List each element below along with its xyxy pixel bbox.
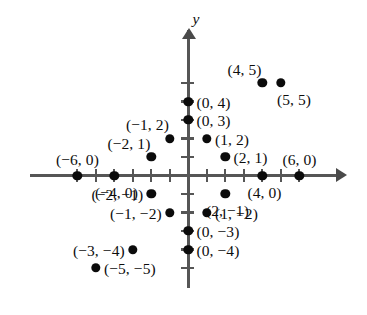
y-tick--2	[181, 211, 194, 213]
x-tick-2	[224, 169, 226, 182]
point-label: (6, 0)	[282, 152, 316, 168]
data-point	[276, 78, 285, 87]
x-tick--1	[169, 169, 171, 182]
data-point	[184, 245, 193, 254]
y-tick-1	[181, 156, 194, 158]
x-tick-5	[280, 169, 282, 182]
point-label: (4, 0)	[247, 185, 281, 201]
data-point	[221, 152, 230, 161]
data-point	[128, 245, 137, 254]
data-point	[184, 97, 193, 106]
point-label: (1, −2)	[215, 206, 258, 222]
data-point	[184, 226, 193, 235]
y-tick-2	[181, 137, 194, 139]
point-label: (0, −4)	[196, 243, 239, 259]
data-point	[165, 134, 174, 143]
data-point	[73, 171, 82, 180]
y-tick--1	[181, 193, 194, 195]
data-point	[165, 208, 174, 217]
y-axis-arrowhead-icon	[182, 28, 196, 39]
y-tick--5	[181, 267, 194, 269]
x-axis-arrowhead-icon	[336, 168, 347, 182]
point-label: (−1, 2)	[126, 117, 169, 133]
x-tick--2	[150, 169, 152, 182]
point-label: (0, 3)	[196, 113, 230, 129]
data-point	[147, 152, 156, 161]
data-point	[258, 78, 267, 87]
x-tick-3	[243, 169, 245, 182]
point-label: (4, 5)	[227, 62, 261, 78]
data-point	[184, 115, 193, 124]
y-tick-5	[181, 82, 194, 84]
data-point	[221, 189, 230, 198]
data-point	[202, 134, 211, 143]
point-label: (−2, −1)	[91, 187, 143, 203]
point-label: (2, 1)	[233, 150, 267, 166]
point-label: (−5, −5)	[104, 261, 156, 277]
y-axis-label: y	[192, 11, 199, 27]
x-tick-1	[206, 169, 208, 182]
x-tick--5	[95, 169, 97, 182]
point-label: (1, 2)	[215, 132, 249, 148]
data-point	[110, 171, 119, 180]
data-point	[258, 171, 267, 180]
data-point	[147, 189, 156, 198]
point-label: (5, 5)	[277, 92, 311, 108]
data-point	[295, 171, 304, 180]
data-point	[91, 263, 100, 272]
point-label: (−6, 0)	[56, 152, 99, 168]
point-label: (−1, −2)	[110, 206, 162, 222]
coordinate-plane-figure: y (4, 5)(5, 5)(0, 4)(0, 3)(−1, 2)(1, 2)(…	[0, 0, 367, 315]
x-tick--3	[132, 169, 134, 182]
point-label: (−3, −4)	[73, 243, 125, 259]
point-label: (0, −3)	[196, 224, 239, 240]
point-label: (0, 4)	[196, 95, 230, 111]
point-label: (−2, 1)	[107, 136, 150, 152]
